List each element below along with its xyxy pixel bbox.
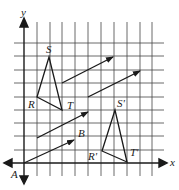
point-a-label: A: [10, 168, 18, 180]
vertex-s-label: S: [46, 43, 52, 55]
vertex-s-prime-label: S': [117, 97, 126, 109]
triangle-rst: [37, 57, 62, 110]
vertex-t-label: T: [67, 99, 74, 111]
vertex-t-prime-label: T': [130, 146, 139, 158]
translation-diagram: x y R S T R' S' T' A B: [0, 0, 179, 190]
vector-a: [24, 140, 74, 163]
vertex-r-label: R: [27, 98, 35, 110]
point-b-label: B: [78, 127, 85, 139]
vertex-r-prime-label: R': [87, 150, 98, 162]
x-axis-label: x: [169, 156, 175, 168]
y-axis-label: y: [20, 6, 26, 18]
